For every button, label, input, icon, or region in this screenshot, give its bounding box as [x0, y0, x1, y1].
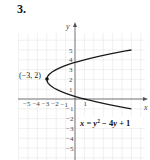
y-axis-arrow-icon [73, 22, 77, 27]
tick-labels: −5−4−3−2−1154321−1−2−3−4−5 [23, 47, 87, 153]
y-tick-label: 1 [69, 86, 73, 94]
y-tick-label: 5 [69, 47, 73, 55]
x-tick-label: −3 [42, 100, 50, 108]
y-tick-label: −5 [66, 145, 74, 153]
y-tick-label: −3 [66, 125, 74, 133]
x-tick-label: 1 [83, 100, 87, 108]
grid [18, 33, 145, 160]
parabola-graph: x y −5−4−3−2−1154321−1−2−3−4−5 (−3, 2) x… [0, 0, 150, 160]
y-tick-label: −4 [66, 135, 74, 143]
x-tick-label: −2 [51, 100, 59, 108]
y-tick-label: 2 [69, 76, 73, 84]
vertex-point [45, 77, 49, 81]
equation-label: x = y2 − 4y + 1 [79, 118, 130, 128]
x-tick-label: −5 [23, 100, 31, 108]
x-axis-label: x [143, 103, 148, 112]
y-tick-label: −1 [66, 105, 74, 113]
vertex-label: (−3, 2) [19, 71, 41, 80]
y-axis-label: y [65, 22, 70, 31]
x-tick-label: −4 [32, 100, 40, 108]
y-tick-label: 3 [69, 66, 73, 74]
x-axis-arrow-icon [143, 97, 148, 101]
y-tick-label: −2 [66, 115, 74, 123]
